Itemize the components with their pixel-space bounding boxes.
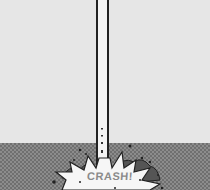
crash-sound-effect: CRASH! [80, 170, 141, 182]
impact-burst-icon [0, 0, 210, 190]
